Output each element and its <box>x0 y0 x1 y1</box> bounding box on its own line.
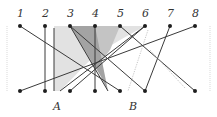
top-label-5: 5 <box>117 7 124 20</box>
bottom-dot-1 <box>18 89 22 93</box>
top-dot-6 <box>143 24 147 28</box>
edge-light-2 <box>150 50 185 88</box>
top-dot-8 <box>193 24 197 28</box>
bottom-dot-5 <box>118 89 122 93</box>
top-label-7: 7 <box>167 7 174 20</box>
edge-7 <box>145 26 170 91</box>
bottom-label-a: A <box>52 100 61 113</box>
bottom-dot-4 <box>93 89 97 93</box>
top-label-2: 2 <box>41 7 49 20</box>
top-dot-5 <box>118 24 122 28</box>
top-label-3: 3 <box>67 7 74 20</box>
permutation-diagram: 1 2 3 4 5 6 7 8 A B <box>0 0 217 117</box>
bottom-label-b: B <box>128 100 137 113</box>
top-label-6: 6 <box>142 7 149 20</box>
top-label-8: 8 <box>192 7 199 20</box>
bottom-dot-7 <box>193 89 197 93</box>
top-dot-1 <box>18 24 22 28</box>
top-dot-2 <box>43 24 47 28</box>
bottom-dot-2 <box>43 89 47 93</box>
bottom-dot-6 <box>143 89 147 93</box>
bottom-dot-3 <box>68 89 72 93</box>
edge-light-1 <box>128 30 148 91</box>
top-dot-3 <box>68 24 72 28</box>
top-dot-7 <box>168 24 172 28</box>
top-dot-4 <box>93 24 97 28</box>
top-label-1: 1 <box>17 7 24 20</box>
top-label-4: 4 <box>91 7 99 20</box>
